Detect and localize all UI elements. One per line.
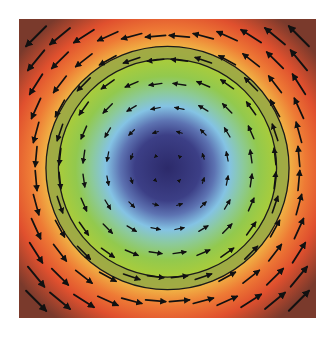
- colormap-background: [19, 19, 316, 318]
- quiver-plot: [19, 19, 316, 318]
- plot-canvas: [19, 19, 316, 318]
